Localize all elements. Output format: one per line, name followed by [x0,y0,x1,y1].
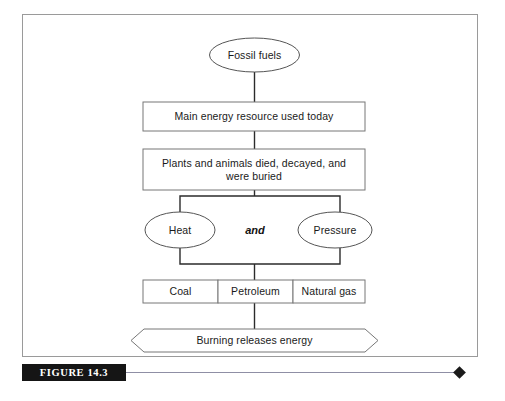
flowchart-diagram [0,0,505,401]
node-petroleum [218,280,293,303]
node-plants-animals [143,149,365,190]
node-main-energy [143,102,365,131]
node-heat [145,212,215,248]
branch-bar-upper [180,196,340,212]
figure-caption-label: FIGURE 14.3 [40,367,108,378]
branch-bar-lower [180,248,340,264]
node-pressure [298,212,372,248]
node-label-and: and [215,221,295,239]
caption-rule [126,372,459,373]
node-fossil-fuels [210,38,300,72]
node-coal [143,280,218,303]
node-burning [131,329,378,352]
figure-caption-bar: FIGURE 14.3 [22,364,126,381]
node-natural-gas [293,280,365,303]
